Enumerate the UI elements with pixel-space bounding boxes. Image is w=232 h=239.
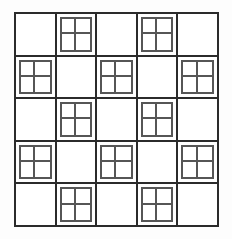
grid-cell-empty — [97, 14, 138, 57]
grid-cell-empty — [178, 99, 219, 142]
grid-cell-subdivided — [178, 57, 219, 100]
grid-cell-quadrant — [198, 77, 214, 94]
figure-root — [0, 0, 232, 239]
grid-cell-quadrant — [141, 17, 157, 34]
grid-cell-subdivided — [97, 142, 138, 185]
grid-cell-quadrant — [19, 145, 35, 162]
grid-cell-quadrant — [141, 34, 157, 51]
grid-cell-quadrant — [19, 60, 35, 77]
grid-cell-quadrant — [60, 119, 76, 136]
grid-cell-quadrant — [198, 145, 214, 162]
grid-cell-subdivided — [57, 99, 98, 142]
grid-cell-empty — [178, 184, 219, 227]
grid-cell-quadrant — [60, 102, 76, 119]
grid-cell-subdivided — [16, 57, 57, 100]
grid-cell-quadrant — [35, 145, 51, 162]
grid-cell-quadrant — [157, 17, 173, 34]
grid-cell-quadrant — [19, 162, 35, 179]
grid-cell-quadrant — [35, 77, 51, 94]
grid-cell-subdivided — [138, 184, 179, 227]
grid-cell-quadrant — [116, 162, 132, 179]
grid-cell-quadrant — [141, 187, 157, 204]
grid-cell-quadrant — [181, 145, 197, 162]
grid-cell-empty — [16, 14, 57, 57]
grid-cell-quadrant — [116, 77, 132, 94]
grid-cell-quadrant — [157, 102, 173, 119]
grid-cell-empty — [57, 57, 98, 100]
grid-cell-quadrant — [181, 162, 197, 179]
grid-cell-quadrant — [60, 34, 76, 51]
grid-cell-subdivided — [16, 142, 57, 185]
grid-cell-quadrant — [76, 102, 92, 119]
grid-cell-subdivided — [57, 184, 98, 227]
square-grid — [14, 12, 219, 227]
grid-cell-quadrant — [35, 60, 51, 77]
grid-cell-quadrant — [116, 60, 132, 77]
grid-cell-quadrant — [76, 17, 92, 34]
grid-cell-quadrant — [141, 205, 157, 222]
grid-cell-quadrant — [60, 205, 76, 222]
grid-cell-quadrant — [60, 187, 76, 204]
grid-cell-quadrant — [157, 119, 173, 136]
grid-cell-quadrant — [76, 187, 92, 204]
grid-cell-subdivided — [97, 57, 138, 100]
grid-cell-subdivided — [178, 142, 219, 185]
grid-cell-subdivided — [138, 14, 179, 57]
grid-cell-quadrant — [181, 77, 197, 94]
grid-cell-quadrant — [100, 77, 116, 94]
grid-cell-empty — [178, 14, 219, 57]
grid-cell-quadrant — [116, 145, 132, 162]
grid-cell-quadrant — [141, 102, 157, 119]
grid-cell-quadrant — [141, 119, 157, 136]
grid-cell-quadrant — [198, 162, 214, 179]
grid-cell-quadrant — [76, 205, 92, 222]
grid-cell-quadrant — [35, 162, 51, 179]
grid-cell-subdivided — [57, 14, 98, 57]
grid-cell-empty — [57, 142, 98, 185]
grid-cell-quadrant — [19, 77, 35, 94]
grid-cell-empty — [16, 184, 57, 227]
grid-cell-empty — [97, 99, 138, 142]
grid-cell-empty — [138, 57, 179, 100]
grid-cell-quadrant — [60, 17, 76, 34]
grid-cell-quadrant — [198, 60, 214, 77]
grid-cell-quadrant — [100, 145, 116, 162]
grid-cell-quadrant — [181, 60, 197, 77]
grid-cell-quadrant — [157, 187, 173, 204]
grid-cell-quadrant — [157, 205, 173, 222]
grid-cell-quadrant — [76, 34, 92, 51]
grid-cell-quadrant — [76, 119, 92, 136]
grid-cell-quadrant — [157, 34, 173, 51]
grid-cell-subdivided — [138, 99, 179, 142]
grid-cell-quadrant — [100, 60, 116, 77]
grid-cell-empty — [16, 99, 57, 142]
grid-cell-empty — [138, 142, 179, 185]
grid-cell-quadrant — [100, 162, 116, 179]
grid-cell-empty — [97, 184, 138, 227]
